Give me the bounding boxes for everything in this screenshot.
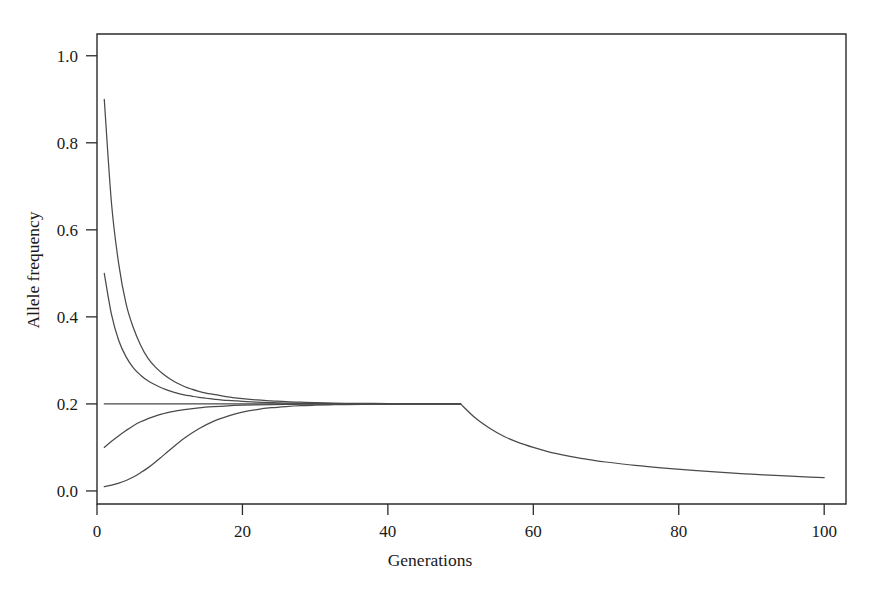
x-tick-label: 40 xyxy=(379,522,396,541)
y-tick-label: 0.6 xyxy=(57,221,78,240)
x-axis-title: Generations xyxy=(388,550,473,570)
y-tick-label: 0.8 xyxy=(57,134,78,153)
x-tick-label: 60 xyxy=(525,522,542,541)
x-tick-label: 80 xyxy=(670,522,687,541)
y-tick-label: 0.0 xyxy=(57,482,78,501)
x-tick-label: 100 xyxy=(811,522,837,541)
y-axis-title: Allele frequency xyxy=(23,211,43,328)
allele-frequency-chart: 020406080100 0.00.20.40.60.81.0 Generati… xyxy=(0,0,878,605)
y-tick-label: 0.4 xyxy=(57,308,79,327)
y-tick-label: 0.2 xyxy=(57,395,78,414)
y-tick-label: 1.0 xyxy=(57,47,78,66)
chart-canvas: 020406080100 0.00.20.40.60.81.0 Generati… xyxy=(0,0,878,605)
chart-background xyxy=(0,0,878,605)
x-tick-label: 20 xyxy=(234,522,251,541)
x-tick-label: 0 xyxy=(93,522,102,541)
